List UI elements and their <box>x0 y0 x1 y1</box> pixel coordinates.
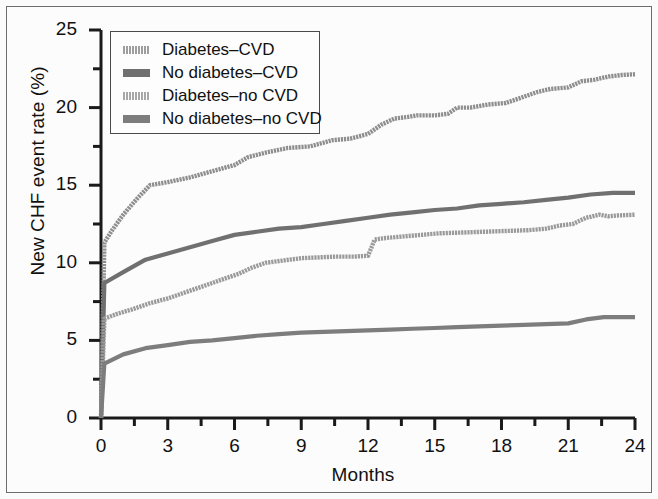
x-tick-label: 9 <box>281 435 321 457</box>
x-tick-label: 21 <box>548 435 588 457</box>
legend-swatch-icon <box>123 115 150 123</box>
legend-item: Diabetes–no CVD <box>123 84 319 107</box>
x-tick-label: 24 <box>615 435 655 457</box>
y-tick-label: 25 <box>37 18 77 40</box>
x-tick-label: 6 <box>215 435 255 457</box>
x-tick-label: 18 <box>482 435 522 457</box>
y-tick-label: 0 <box>37 406 77 428</box>
chart-legend: Diabetes–CVDNo diabetes–CVDDiabetes–no C… <box>110 31 320 134</box>
legend-swatch-icon <box>123 46 150 54</box>
y-axis-title: New CHF event rate (%) <box>27 61 49 281</box>
x-axis-title: Months <box>283 464 443 486</box>
legend-item: No diabetes–no CVD <box>123 107 319 130</box>
x-tick-label: 0 <box>81 435 121 457</box>
legend-label: Diabetes–no CVD <box>162 87 298 104</box>
legend-label: No diabetes–no CVD <box>162 110 322 127</box>
legend-label: No diabetes–CVD <box>162 64 298 81</box>
y-tick-label: 5 <box>37 328 77 350</box>
legend-swatch-icon <box>123 69 150 77</box>
x-tick-label: 12 <box>348 435 388 457</box>
figure-panel: 051015202503691215182124 New CHF event r… <box>0 0 658 499</box>
x-tick-label: 3 <box>148 435 188 457</box>
chart-plot-area <box>0 0 658 499</box>
legend-item: No diabetes–CVD <box>123 61 319 84</box>
legend-label: Diabetes–CVD <box>162 41 274 58</box>
series-line-3 <box>101 317 635 418</box>
legend-swatch-icon <box>123 92 150 100</box>
legend-item: Diabetes–CVD <box>123 38 319 61</box>
series-line-2 <box>101 215 635 418</box>
x-tick-label: 15 <box>415 435 455 457</box>
